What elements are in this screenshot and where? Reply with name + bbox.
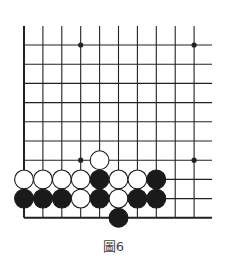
black-stone xyxy=(90,170,109,189)
star-point-icon xyxy=(192,42,197,47)
white-stone xyxy=(34,170,53,189)
white-stone xyxy=(71,189,90,208)
go-board-diagram xyxy=(0,0,227,230)
star-point-icon xyxy=(78,158,83,163)
black-stone xyxy=(15,189,34,208)
black-stone xyxy=(109,208,128,227)
black-stone xyxy=(128,189,147,208)
star-point-icon xyxy=(78,42,83,47)
white-stone xyxy=(109,170,128,189)
white-stone xyxy=(71,170,90,189)
black-stone xyxy=(52,189,71,208)
star-point-icon xyxy=(192,158,197,163)
white-stone xyxy=(15,170,34,189)
black-stone xyxy=(90,189,109,208)
white-stone xyxy=(128,170,147,189)
white-stone xyxy=(90,151,109,170)
black-stone xyxy=(147,170,166,189)
figure-caption: 圖6 xyxy=(0,236,227,255)
black-stone xyxy=(147,189,166,208)
white-stone xyxy=(109,189,128,208)
white-stone xyxy=(52,170,71,189)
black-stone xyxy=(34,189,53,208)
